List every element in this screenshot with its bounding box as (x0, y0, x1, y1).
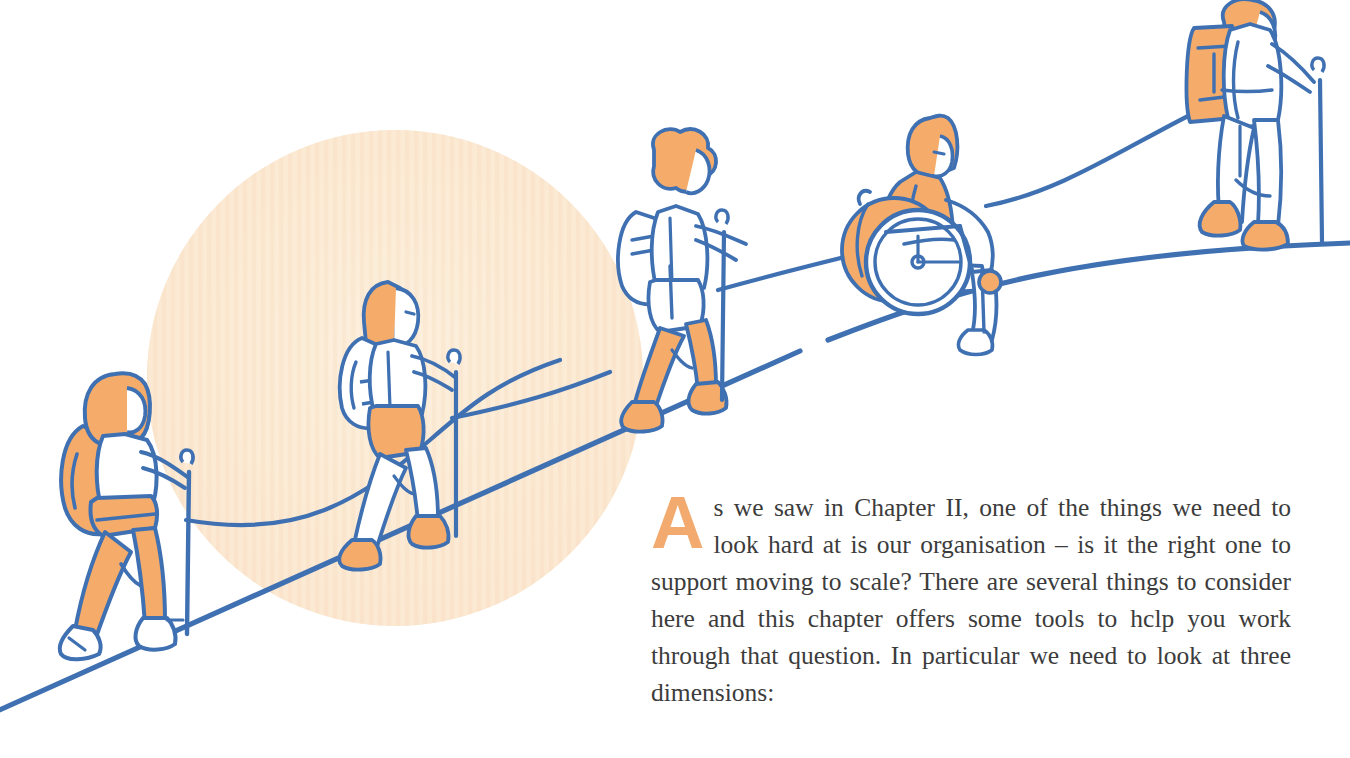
paragraph-text: s we saw in Chapter II, one of the thing… (651, 493, 1291, 707)
body-copy-block: As we saw in Chapter II, one of the thin… (651, 489, 1291, 711)
page-root: As we saw in Chapter II, one of the thin… (0, 0, 1350, 758)
drop-cap-letter: A (651, 491, 703, 555)
intro-paragraph: As we saw in Chapter II, one of the thin… (651, 489, 1291, 711)
figure-wheelchair-user (842, 116, 1001, 355)
figure-hiker-5 (1187, 0, 1325, 250)
